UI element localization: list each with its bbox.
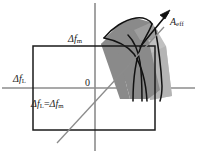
arrow-label-sub: eff (176, 20, 184, 27)
diagram-canvas: ΔfL Δfm 0 ΔfL=Δfm Aeff (0, 0, 197, 153)
diagonal-line-label: ΔfL=Δfm (31, 99, 64, 110)
origin-label: 0 (85, 78, 90, 88)
y-axis-label-sub: m (77, 37, 82, 44)
x-axis-label: ΔfL (13, 74, 26, 85)
arrow-label: Aeff (170, 17, 184, 28)
x-axis-label-sub: L (22, 77, 26, 84)
y-axis-label: Δfm (68, 34, 82, 45)
diagonal-label-sub2: m (58, 102, 63, 109)
diagram-graphics (0, 0, 197, 153)
